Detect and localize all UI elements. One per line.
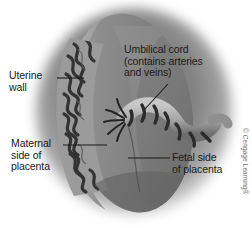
label-umbilical-cord: Umbilical cord (contains arteries and ve… [124, 44, 203, 79]
label-fetal-side: Fetal side of placenta [172, 152, 222, 175]
copyright-credit: © Cengage Learning® [242, 128, 249, 220]
label-uterine-wall: Uterine wall [9, 70, 42, 93]
placenta-figure: Uterine wall Umbilical cord (contains ar… [0, 0, 252, 228]
label-maternal-side: Maternal side of placenta [11, 138, 51, 173]
placenta-illustration [0, 0, 252, 228]
